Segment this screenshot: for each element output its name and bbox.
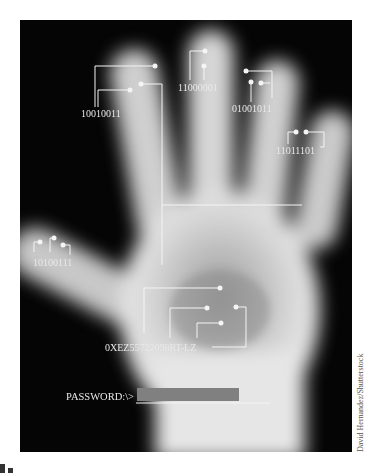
thumb-code: 10100111 — [33, 257, 72, 268]
pinky-finger-code: 11011101 — [276, 145, 315, 156]
photo-credit: David Hernandez/Shutterstock — [356, 337, 365, 452]
corner-mark — [0, 462, 14, 473]
password-field — [137, 388, 239, 401]
hand-illustration: 10010011 11000001 01001011 11011101 1010… — [20, 20, 352, 452]
ring-finger-code: 01001011 — [232, 103, 272, 114]
hand-xray-photo: 10010011 11000001 01001011 11011101 1010… — [20, 20, 352, 452]
password-prompt: PASSWORD:\> — [66, 391, 134, 402]
index-finger-code: 10010011 — [81, 108, 121, 119]
middle-finger-code: 11000001 — [178, 82, 218, 93]
palm-code: 0XEZ55722098RT-LZ — [105, 342, 196, 353]
